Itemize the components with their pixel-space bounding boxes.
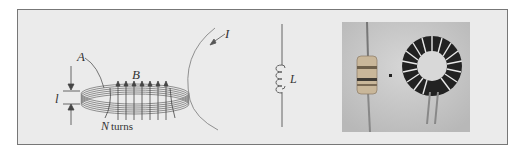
area-pointer-icon bbox=[85, 58, 104, 88]
inductance-label: L bbox=[290, 73, 297, 85]
inductor-symbol-icon bbox=[276, 24, 285, 127]
current-label: I bbox=[225, 27, 229, 40]
length-label: l bbox=[55, 92, 59, 105]
field-label: B bbox=[132, 68, 140, 81]
length-dimension-icon bbox=[63, 66, 80, 125]
photo-drawing bbox=[342, 22, 470, 132]
turns-var-label: N bbox=[101, 120, 109, 132]
dot-icon bbox=[389, 74, 392, 77]
turns-word-label: turns bbox=[111, 121, 133, 132]
current-arrow-icon bbox=[210, 34, 225, 45]
inductor-photo bbox=[342, 22, 470, 132]
area-label: A bbox=[77, 50, 85, 63]
